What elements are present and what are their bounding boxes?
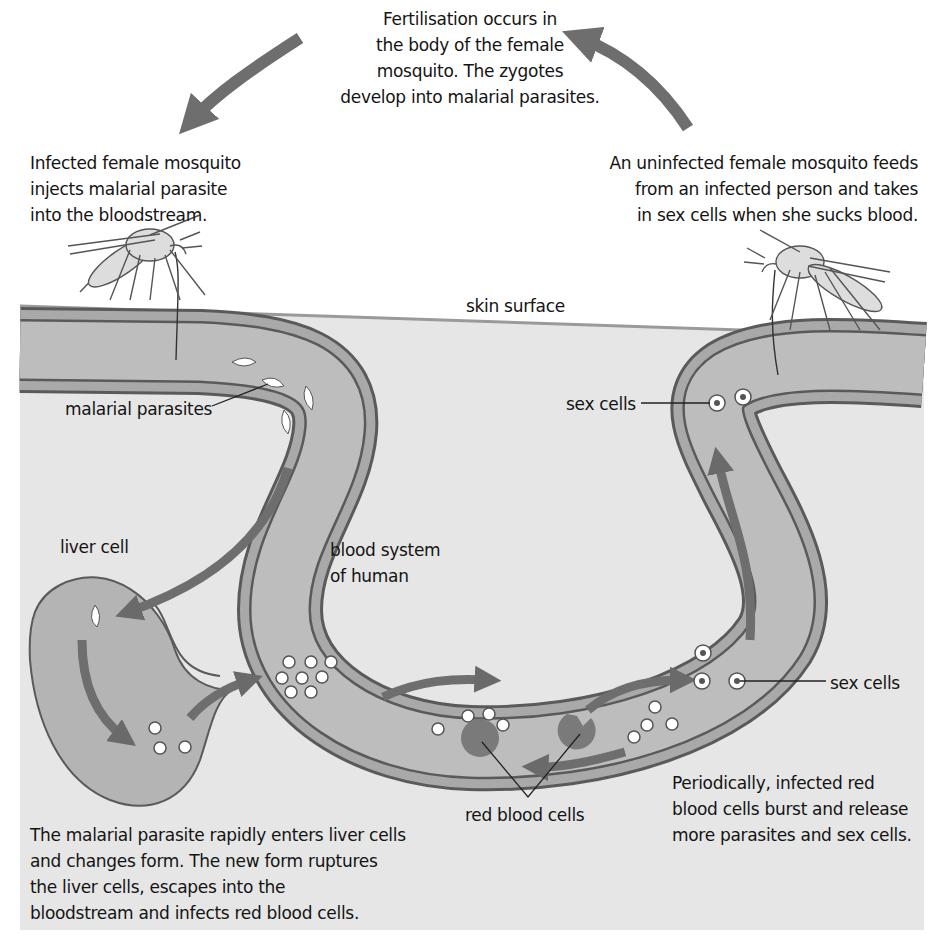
infected-mosquito-caption: Infected female mosquito injects malaria…	[30, 150, 241, 228]
label-line: of human	[330, 563, 440, 589]
liver-stage-caption: The malarial parasite rapidly enters liv…	[30, 822, 406, 926]
caption-line: Fertilisation occurs in	[320, 6, 620, 32]
malaria-life-cycle-diagram: Fertilisation occurs in the body of the …	[0, 0, 938, 948]
uninfected-mosquito-caption: An uninfected female mosquito feeds from…	[609, 150, 918, 228]
caption-line: Periodically, infected red	[672, 770, 912, 796]
caption-line: into the bloodstream.	[30, 202, 241, 228]
caption-line: more parasites and sex cells.	[672, 822, 912, 848]
red-blood-cells-label: red blood cells	[465, 802, 584, 828]
caption-line: in sex cells when she sucks blood.	[609, 202, 918, 228]
caption-line: Infected female mosquito	[30, 150, 241, 176]
sex-cells-top-label: sex cells	[566, 391, 636, 417]
caption-line: injects malarial parasite	[30, 176, 241, 202]
caption-line: bloodstream and infects red blood cells.	[30, 900, 406, 926]
malarial-parasites-label: malarial parasites	[65, 396, 212, 422]
caption-line: the liver cells, escapes into the	[30, 874, 406, 900]
caption-line: and changes form. The new form ruptures	[30, 848, 406, 874]
caption-line: The malarial parasite rapidly enters liv…	[30, 822, 406, 848]
caption-line: the body of the female	[320, 32, 620, 58]
skin-surface-label: skin surface	[466, 293, 565, 319]
fertilisation-caption: Fertilisation occurs in the body of the …	[320, 6, 620, 110]
sex-cells-right-label: sex cells	[830, 670, 900, 696]
caption-line: mosquito. The zygotes	[320, 58, 620, 84]
caption-line: from an infected person and takes	[609, 176, 918, 202]
caption-line: An uninfected female mosquito feeds	[609, 150, 918, 176]
caption-line: blood cells burst and release	[672, 796, 912, 822]
liver-cell-label: liver cell	[60, 534, 129, 560]
blood-system-label: blood system of human	[330, 537, 440, 589]
label-line: blood system	[330, 537, 440, 563]
caption-line: develop into malarial parasites.	[320, 84, 620, 110]
burst-stage-caption: Periodically, infected red blood cells b…	[672, 770, 912, 848]
